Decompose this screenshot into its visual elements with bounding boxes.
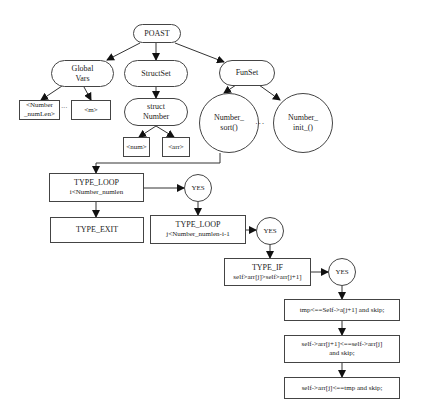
node-num: <num> — [123, 137, 150, 157]
node-poast: POAST — [133, 24, 181, 43]
node-label: YES — [191, 184, 204, 193]
node-label: TYPE_EXIT — [76, 225, 118, 235]
node-label: TYPE_LOOP — [176, 220, 221, 230]
node-label: Number_ — [288, 113, 318, 123]
node-label: <m> — [84, 106, 97, 115]
node-label: Number — [143, 112, 169, 122]
node-number-init: Number_ init_() — [273, 93, 333, 153]
node-number-sort: Number_ sort() — [199, 93, 259, 153]
node-label: struct — [147, 102, 165, 112]
node-label: self>arr[j]>self>arr[j+1] — [233, 273, 301, 282]
node-number-numlen: <Number _numLen> — [19, 100, 60, 120]
node-label: StructSet — [141, 69, 170, 79]
node-if: TYPE_IF self>arr[j]>self>arr[j+1] — [224, 258, 311, 286]
node-label: TYPE_LOOP — [74, 178, 119, 188]
node-label: <num> — [126, 143, 146, 152]
node-yes-3: YES — [328, 258, 356, 286]
node-label: and skip; — [329, 349, 354, 358]
node-label: Number_ — [214, 113, 244, 123]
node-struct-set: StructSet — [124, 60, 188, 87]
node-stmt-swap: self->arr[j+1]<==self->arr[j] and skip; — [284, 335, 400, 363]
node-label: tmp<==Self->a[j+1] and skip; — [300, 306, 385, 315]
node-label: j<Number_numlen-i-1 — [166, 230, 229, 239]
node-fun-set: FunSet — [219, 60, 275, 86]
node-exit: TYPE_EXIT — [50, 217, 144, 243]
node-m: <m> — [71, 100, 111, 120]
node-label: <arr> — [168, 143, 184, 152]
ellipsis: · · · — [255, 118, 264, 128]
node-loop-i: TYPE_LOOP i<Number_numlen — [49, 173, 144, 202]
node-stmt-tmp: tmp<==Self->a[j+1] and skip; — [284, 299, 400, 321]
node-label: YES — [335, 268, 348, 277]
node-label: self->arr[j+1]<==self->arr[j] — [302, 340, 383, 349]
node-yes-1: YES — [184, 174, 212, 202]
node-label: TYPE_IF — [252, 263, 283, 273]
node-label: FunSet — [236, 68, 259, 78]
node-yes-2: YES — [256, 217, 284, 245]
node-label: Vars — [75, 74, 89, 84]
node-label: <Number — [26, 101, 53, 110]
node-label: YES — [263, 227, 276, 236]
node-global-vars: Global Vars — [51, 60, 114, 87]
node-struct-number: struct Number — [124, 98, 188, 126]
node-loop-j: TYPE_LOOP j<Number_numlen-i-1 — [150, 215, 246, 244]
node-label: _numLen> — [24, 110, 55, 119]
ellipsis: · · · — [61, 104, 67, 112]
node-label: init_() — [293, 123, 313, 133]
node-label: Global — [72, 64, 94, 74]
node-label: self->arr[j]<==tmp and skip; — [302, 384, 383, 393]
node-arr: <arr> — [162, 137, 190, 157]
node-label: sort() — [220, 123, 237, 133]
node-stmt-assign: self->arr[j]<==tmp and skip; — [284, 377, 400, 399]
node-label: POAST — [144, 29, 169, 39]
node-label: i<Number_numlen — [70, 188, 123, 197]
